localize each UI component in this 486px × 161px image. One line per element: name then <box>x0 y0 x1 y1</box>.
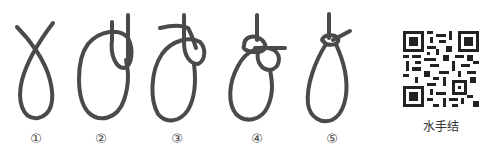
step-number-2: ② <box>91 131 111 146</box>
rope-crossed-loop-icon <box>17 23 53 118</box>
step-number-4: ④ <box>247 131 267 146</box>
qr-label: 水手结 <box>405 117 477 134</box>
step-number-5: ⑤ <box>322 131 342 146</box>
step-number-1: ① <box>26 131 46 146</box>
knot-steps-figure: ① ② ③ ④ ⑤ 水手结 <box>0 0 486 161</box>
rope-tail-through-icon <box>230 15 285 120</box>
bowline-finished-icon <box>308 14 350 121</box>
rope-loop-with-bight-icon <box>79 15 131 118</box>
rope-tail-wrap-icon <box>152 15 204 120</box>
step-number-3: ③ <box>167 131 187 146</box>
qr-code-icon[interactable] <box>403 31 479 107</box>
